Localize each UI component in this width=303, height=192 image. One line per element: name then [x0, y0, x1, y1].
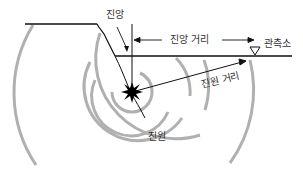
- fault-scarp: [97, 24, 115, 56]
- wave-ring-5: [14, 25, 36, 165]
- earthquake-diagram: 진앙 진앙 거리 관측소 진원 거리 진원: [0, 0, 303, 192]
- epicenter-pointer-arrow: [117, 27, 129, 52]
- epicentral-distance-label: 진앙 거리: [170, 34, 209, 45]
- hypocenter-star-icon: [121, 82, 143, 103]
- station-icon: [250, 47, 260, 55]
- hypocenter-label: 진원: [148, 131, 166, 142]
- epicenter-label: 진앙: [106, 9, 124, 20]
- station-label: 관측소: [264, 38, 291, 49]
- wave-ring-3: [84, 62, 182, 141]
